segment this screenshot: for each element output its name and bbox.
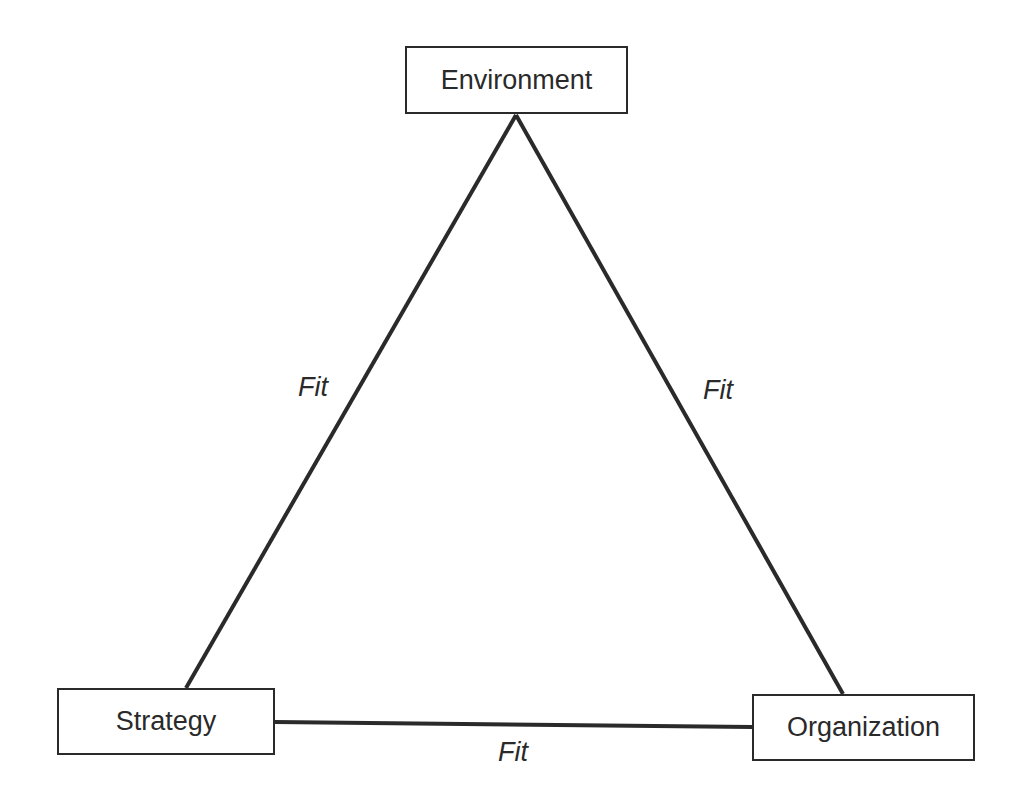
node-organization-label: Organization <box>787 712 940 743</box>
node-strategy: Strategy <box>57 688 275 755</box>
node-environment: Environment <box>405 46 628 114</box>
edge-environment-organization <box>516 115 843 694</box>
node-environment-label: Environment <box>441 65 593 96</box>
edge-label-environment-organization: Fit <box>703 375 733 406</box>
edge-label-environment-strategy: Fit <box>298 372 328 403</box>
node-strategy-label: Strategy <box>116 706 217 737</box>
edge-label-strategy-organization: Fit <box>498 737 528 768</box>
edge-environment-strategy <box>186 115 516 688</box>
edge-strategy-organization <box>275 722 752 727</box>
node-organization: Organization <box>752 694 975 761</box>
